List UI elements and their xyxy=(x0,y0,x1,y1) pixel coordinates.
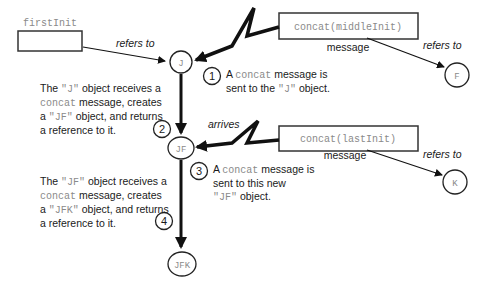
object-k-label: K xyxy=(452,179,458,189)
object-jf-label: JF xyxy=(176,145,187,155)
text: object receives a xyxy=(85,175,167,187)
text: The xyxy=(40,82,61,94)
note-jf-object: The "JF" object receives a concat messag… xyxy=(40,175,169,230)
step-number-3: 3 xyxy=(196,165,202,177)
text: object. xyxy=(237,190,271,202)
message-caption-lastinit: message xyxy=(324,149,367,161)
text: The xyxy=(40,175,61,187)
note-j-object: The "J" object receives a concat message… xyxy=(40,82,163,137)
text: A xyxy=(213,163,222,175)
lightning-arrow-message-1 xyxy=(196,8,279,60)
step-number-1: 1 xyxy=(209,70,215,82)
step-1-description: A concat message is sent to the "J" obje… xyxy=(226,68,330,96)
message-text-middleinit: concat(middleInit) xyxy=(294,22,402,33)
code-concat: concat xyxy=(222,165,258,176)
text: sent to the xyxy=(226,82,278,94)
object-jfk-label: JFK xyxy=(174,261,191,271)
step-3-description: A concat message is sent to this new "JF… xyxy=(213,163,314,204)
text: a xyxy=(40,110,49,122)
object-f-label: F xyxy=(454,72,459,82)
code-j: "J" xyxy=(278,84,296,95)
code-jf: "JF" xyxy=(213,192,237,203)
text: message is xyxy=(258,163,314,175)
refers-arrow-firstinit xyxy=(83,47,165,61)
message-text-lastinit: concat(lastInit) xyxy=(300,134,396,145)
refers-label-k: refers to xyxy=(423,148,462,160)
code-jf: "JF" xyxy=(61,177,85,188)
text: object, and returns xyxy=(73,110,163,122)
code-concat: concat xyxy=(40,98,76,109)
code-j: "J" xyxy=(61,84,79,95)
message-caption-middleinit: message xyxy=(327,41,370,53)
code-jf: "JF" xyxy=(49,112,73,123)
text: a reference to it. xyxy=(40,124,116,136)
text: message is xyxy=(271,68,327,80)
text: message, creates xyxy=(76,189,162,201)
text: sent to this new xyxy=(213,177,286,189)
text: a xyxy=(40,203,49,215)
refers-label-f: refers to xyxy=(423,39,462,51)
text: object. xyxy=(296,82,330,94)
variable-name-firstinit: firstInit xyxy=(23,18,77,29)
variable-box-firstinit xyxy=(18,31,82,51)
arrives-label: arrives xyxy=(208,118,240,130)
code-jfk: "JFK" xyxy=(49,205,79,216)
code-concat: concat xyxy=(235,70,271,81)
text: object receives a xyxy=(79,82,161,94)
text: a reference to it. xyxy=(40,217,116,229)
refers-label-firstinit: refers to xyxy=(116,37,155,49)
code-concat: concat xyxy=(40,191,76,202)
text: A xyxy=(226,68,235,80)
object-j-label: J xyxy=(178,59,183,69)
text: object, and returns xyxy=(79,203,169,215)
diagram-canvas: firstInit refers to J JF JFK concat(midd… xyxy=(0,0,486,289)
text: message, creates xyxy=(76,96,162,108)
